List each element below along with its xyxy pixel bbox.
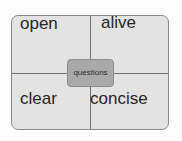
- center-node: questions: [67, 59, 114, 87]
- diagram-canvas: open alive clear concise questions: [0, 0, 182, 141]
- quadrant-label-concise: concise: [90, 90, 148, 107]
- quadrant-label-open: open: [20, 15, 58, 32]
- quadrant-label-alive: alive: [101, 14, 136, 31]
- quadrant-label-clear: clear: [20, 90, 57, 107]
- center-node-label: questions: [73, 69, 107, 77]
